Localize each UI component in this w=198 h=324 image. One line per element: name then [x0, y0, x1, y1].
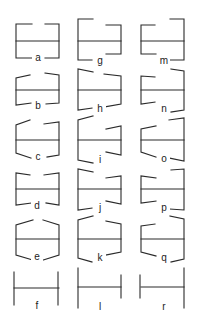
label-b: b — [32, 101, 44, 111]
label-d: d — [31, 201, 43, 211]
label-j: j — [94, 203, 106, 213]
label-h: h — [94, 104, 106, 114]
label-c: c — [32, 152, 44, 162]
label-r: r — [158, 302, 170, 312]
label-n: n — [158, 104, 170, 114]
label-q: q — [158, 253, 170, 263]
figure-m — [141, 19, 184, 60]
label-p: p — [158, 203, 170, 213]
label-k: k — [94, 253, 106, 263]
label-i: i — [94, 155, 106, 165]
label-o: o — [158, 154, 170, 164]
label-l: l — [94, 302, 106, 312]
label-f: f — [31, 301, 43, 311]
label-g: g — [94, 56, 106, 66]
figure-grid: a b c d e f g h i j k l m n o p q r — [0, 0, 198, 324]
label-e: e — [31, 252, 43, 262]
figure-g — [78, 19, 121, 60]
label-m: m — [158, 56, 170, 66]
label-a: a — [32, 53, 44, 63]
